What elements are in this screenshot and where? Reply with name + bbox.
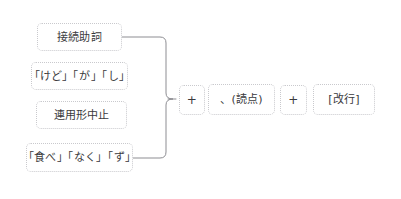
node-plus-operator-1[interactable]: + xyxy=(179,85,205,115)
node-kaigyou-linebreak[interactable]: [改行] xyxy=(313,84,375,115)
diagram-canvas: 接続助詞 「けど」「が」「し」 連用形中止 「食べ」「なく」「ず」 + 、(読点… xyxy=(0,0,401,199)
node-tabe-naku-zu[interactable]: 「食べ」「なく」「ず」 xyxy=(26,143,133,172)
node-kedo-ga-shi[interactable]: 「けど」「が」「し」 xyxy=(31,62,128,90)
node-conjunctive-particle[interactable]: 接続助詞 xyxy=(37,23,122,51)
node-renyoukei-chuushi[interactable]: 連用形中止 xyxy=(36,101,127,129)
node-label: [改行] xyxy=(328,94,359,105)
node-label: 「食べ」「なく」「ず」 xyxy=(23,152,136,163)
node-label: + xyxy=(288,94,298,106)
node-plus-operator-2[interactable]: + xyxy=(280,85,307,115)
node-touten-comma[interactable]: 、(読点) xyxy=(208,84,275,115)
node-label: 、(読点) xyxy=(220,94,263,105)
node-label: 連用形中止 xyxy=(54,110,110,121)
node-label: + xyxy=(187,94,197,106)
node-label: 接続助詞 xyxy=(57,32,102,43)
node-label: 「けど」「が」「し」 xyxy=(29,71,131,82)
brace-path xyxy=(122,37,173,158)
